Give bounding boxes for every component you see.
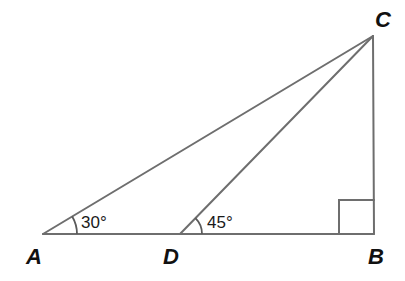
angle-arc-a	[72, 217, 77, 235]
right-angle-marker	[339, 200, 374, 234]
vertex-label-a: A	[25, 244, 42, 269]
vertex-label-b: B	[368, 244, 384, 269]
angle-label-d: 45°	[207, 213, 233, 232]
vertex-label-c: C	[375, 7, 392, 32]
triangle-diagram: 30° 45° A D B C	[0, 0, 405, 281]
angle-arc-d	[195, 218, 202, 234]
segment-bc	[373, 36, 374, 234]
vertex-label-d: D	[163, 244, 179, 269]
angle-label-a: 30°	[81, 213, 107, 232]
